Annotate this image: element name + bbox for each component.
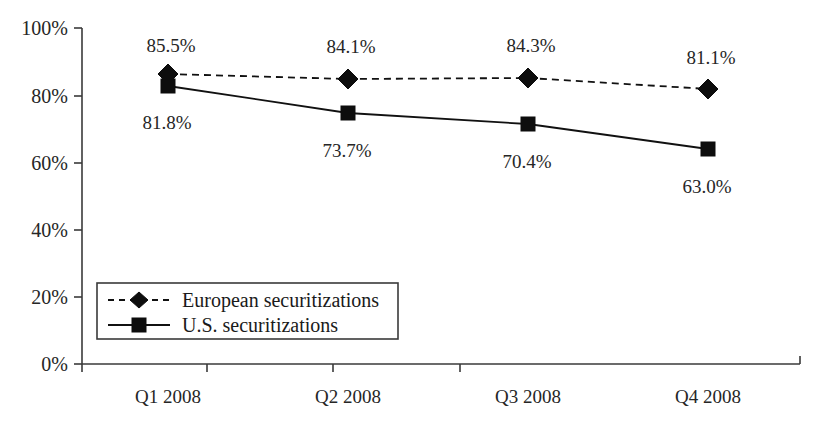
y-tick-label-40: 40% xyxy=(31,219,68,241)
x-axis-ticks xyxy=(82,364,460,372)
data-labels-us: 81.8% 73.7% 70.4% 63.0% xyxy=(142,112,731,197)
data-label-us-q1: 81.8% xyxy=(142,112,191,133)
chart-legend[interactable]: European securitizations U.S. securitiza… xyxy=(97,283,398,339)
series-line-european-securitizations xyxy=(168,74,708,89)
y-tick-label-0: 0% xyxy=(41,353,68,375)
data-labels-european: 85.5% 84.1% 84.3% 81.1% xyxy=(146,35,735,68)
y-axis-tick-labels: 100% 80% 60% 40% 20% 0% xyxy=(21,17,68,375)
data-label-us-q3: 70.4% xyxy=(502,151,551,172)
marker-square-q3 xyxy=(521,117,535,131)
x-tick-label-q1: Q1 2008 xyxy=(135,386,201,407)
marker-diamond-q4 xyxy=(698,79,718,99)
square-icon xyxy=(132,318,146,332)
data-label-european-q1: 85.5% xyxy=(146,35,195,56)
y-tick-label-20: 20% xyxy=(31,286,68,308)
marker-diamond-q3 xyxy=(518,68,538,88)
legend-label-european: European securitizations xyxy=(182,289,379,312)
line-chart: 100% 80% 60% 40% 20% 0% Q1 2008 Q2 2008 … xyxy=(0,0,826,431)
chart-container: 100% 80% 60% 40% 20% 0% Q1 2008 Q2 2008 … xyxy=(0,0,826,431)
y-axis-ticks xyxy=(74,28,82,364)
data-label-european-q2: 84.1% xyxy=(326,36,375,57)
data-label-european-q3: 84.3% xyxy=(506,35,555,56)
series-markers-european-securitizations xyxy=(158,64,718,99)
x-tick-label-q3: Q3 2008 xyxy=(495,386,561,407)
x-axis-tick-labels: Q1 2008 Q2 2008 Q3 2008 Q4 2008 xyxy=(135,386,741,407)
legend-label-us: U.S. securitizations xyxy=(182,314,338,336)
data-label-us-q2: 73.7% xyxy=(322,140,371,161)
y-tick-label-100: 100% xyxy=(21,17,68,39)
data-label-european-q4: 81.1% xyxy=(686,47,735,68)
marker-square-q4 xyxy=(701,142,715,156)
marker-diamond-q2 xyxy=(338,69,358,89)
series-markers-us-securitizations xyxy=(161,79,715,156)
x-tick-label-q2: Q2 2008 xyxy=(315,386,381,407)
y-tick-label-80: 80% xyxy=(31,85,68,107)
marker-square-q2 xyxy=(341,106,355,120)
series-line-us-securitizations xyxy=(168,86,708,149)
y-tick-label-60: 60% xyxy=(31,152,68,174)
x-tick-label-q4: Q4 2008 xyxy=(675,386,741,407)
data-label-us-q4: 63.0% xyxy=(682,176,731,197)
